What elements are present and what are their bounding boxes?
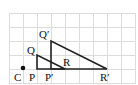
label-c: C	[14, 71, 21, 83]
label-q-prime: Q′	[39, 28, 49, 40]
label-q: Q	[27, 44, 35, 56]
center-point-c	[21, 66, 26, 71]
label-r-prime: R′	[100, 71, 110, 83]
label-r: R	[63, 56, 71, 68]
label-p-prime: P′	[45, 71, 54, 83]
label-p: P	[29, 71, 35, 83]
dilation-diagram: C P P′ Q Q′ R R′	[0, 0, 138, 85]
